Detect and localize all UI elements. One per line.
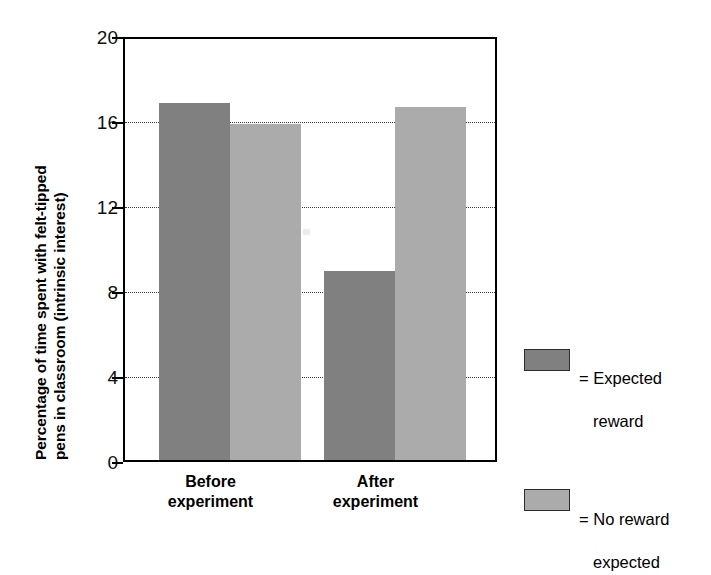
y-tick-mark-4 (112, 377, 123, 379)
y-axis-title-line-1: Percentage of time spent with felt-tippe… (32, 165, 50, 460)
bar-before-no-reward-expected (230, 124, 301, 460)
legend-label-expected-reward: = Expected reward (579, 347, 662, 454)
legend-item-no-reward-expected: = No reward expected (524, 487, 709, 575)
chart-legend: = Expected reward = No reward expected (524, 347, 709, 575)
bar-before-expected-reward (159, 103, 230, 460)
x-axis-group-label-after: After experiment (313, 472, 438, 513)
legend-label-expected-reward-line-2: reward (593, 411, 662, 432)
y-tick-mark-12 (112, 207, 123, 209)
plot-area (123, 37, 497, 462)
x-axis-group-label-after-line-2: experiment (313, 492, 438, 512)
y-axis-title: Percentage of time spent with felt-tippe… (10, 20, 68, 470)
y-axis-tick-labels: 20 16 12 8 4 0 (78, 0, 118, 540)
y-tick-mark-8 (112, 292, 123, 294)
scan-artifact (303, 229, 310, 235)
bar-after-expected-reward (324, 271, 395, 460)
legend-label-no-reward-expected-line-2: expected (593, 552, 669, 573)
y-tick-mark-16 (112, 122, 123, 124)
bar-after-no-reward-expected (395, 107, 466, 460)
legend-item-expected-reward: = Expected reward (524, 347, 709, 454)
legend-label-expected-reward-line-1: = Expected (579, 368, 662, 389)
legend-label-no-reward-expected: = No reward expected (579, 487, 669, 575)
x-axis-group-label-before: Before experiment (148, 472, 273, 513)
x-axis-group-label-before-line-2: experiment (148, 492, 273, 512)
y-tick-mark-0 (112, 462, 123, 464)
y-axis-title-line-2: pens in classroom (intrinsic interest) (51, 192, 69, 460)
x-axis-group-label-before-line-1: Before (148, 472, 273, 492)
legend-label-no-reward-expected-line-1: = No reward (579, 509, 669, 530)
x-axis-group-label-after-line-1: After (313, 472, 438, 492)
y-tick-mark-20 (112, 37, 123, 39)
legend-swatch-dark-icon (524, 349, 570, 371)
legend-swatch-light-icon (524, 489, 570, 511)
